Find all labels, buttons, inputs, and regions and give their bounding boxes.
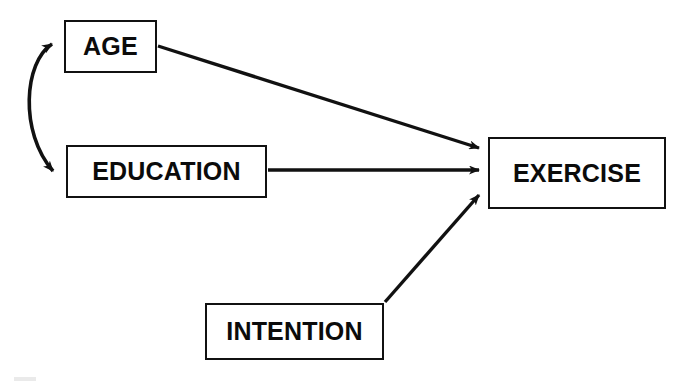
node-age: AGE [64, 20, 157, 73]
node-education: EDUCATION [66, 145, 267, 198]
node-intention: INTENTION [205, 303, 384, 360]
edge-age-education-correlation [29, 44, 53, 171]
node-exercise: EXERCISE [488, 137, 666, 209]
path-diagram: AGE EDUCATION INTENTION EXERCISE [0, 0, 682, 389]
node-intention-label: INTENTION [226, 319, 363, 344]
node-exercise-label: EXERCISE [513, 161, 641, 186]
node-education-label: EDUCATION [92, 159, 241, 184]
edge-intention-to-exercise [385, 195, 479, 302]
scan-artifact [14, 377, 36, 381]
node-age-label: AGE [83, 34, 138, 59]
edge-age-to-exercise [158, 46, 479, 148]
